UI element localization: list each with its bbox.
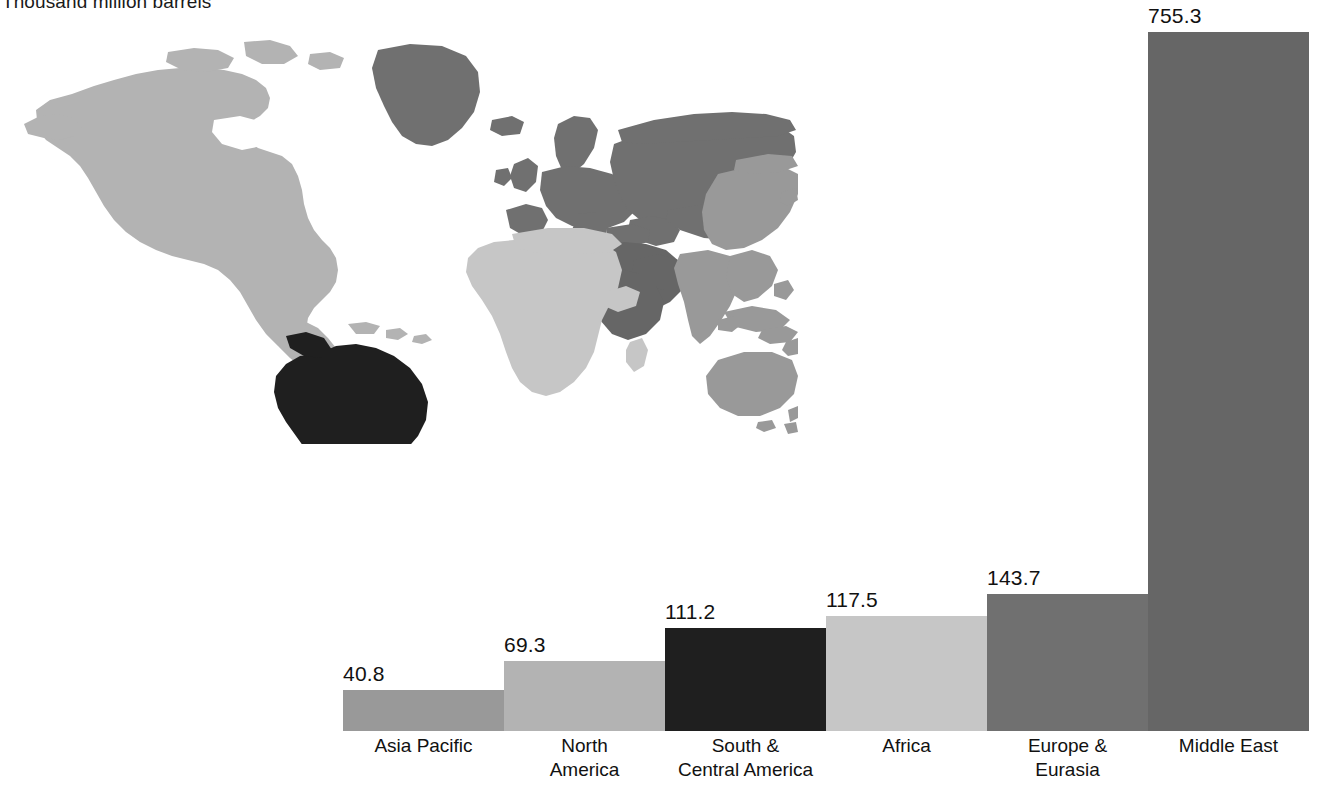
bar-column[interactable]: 40.8	[343, 656, 504, 731]
category-label-line: Africa	[826, 734, 987, 758]
bar-value-label: 143.7	[987, 566, 1041, 590]
bar-column[interactable]: 143.7	[987, 560, 1148, 731]
bar-rect[interactable]	[1148, 32, 1309, 731]
bar-column[interactable]: 111.2	[665, 594, 826, 731]
category-label: Europe &Eurasia	[987, 734, 1148, 782]
category-label: NorthAmerica	[504, 734, 665, 782]
chart-title: Thousand million barrels	[2, 0, 211, 13]
category-label-line: Eurasia	[987, 758, 1148, 782]
bar-rect[interactable]	[826, 616, 987, 731]
bar-column[interactable]: 69.3	[504, 627, 665, 731]
bar-rect[interactable]	[665, 628, 826, 731]
bar-rect[interactable]	[504, 661, 665, 731]
bar-value-label: 69.3	[504, 633, 546, 657]
category-label: South &Central America	[665, 734, 826, 782]
bar-value-label: 117.5	[826, 588, 878, 612]
category-label-line: North	[504, 734, 665, 758]
category-label-line: Europe &	[987, 734, 1148, 758]
category-label: Asia Pacific	[343, 734, 504, 758]
category-label: Middle East	[1148, 734, 1309, 758]
bar-rect[interactable]	[987, 594, 1148, 731]
bar-chart-plot-area: 40.869.3111.2117.5143.7755.3	[343, 0, 1311, 731]
bar-value-label: 40.8	[343, 662, 385, 686]
category-label-line: South &	[665, 734, 826, 758]
category-axis: Asia PacificNorthAmericaSouth &Central A…	[343, 734, 1311, 802]
bar-column[interactable]: 117.5	[826, 582, 987, 731]
category-label-line: America	[504, 758, 665, 782]
category-label-line: Central America	[665, 758, 826, 782]
bar-value-label: 755.3	[1148, 4, 1202, 28]
bar-rect[interactable]	[343, 690, 504, 731]
category-label-line: Asia Pacific	[343, 734, 504, 758]
bar-column[interactable]: 755.3	[1148, 0, 1309, 731]
bar-value-label: 111.2	[665, 600, 715, 624]
chart-figure: Thousand million barrels	[0, 0, 1325, 802]
category-label: Africa	[826, 734, 987, 758]
category-label-line: Middle East	[1148, 734, 1309, 758]
